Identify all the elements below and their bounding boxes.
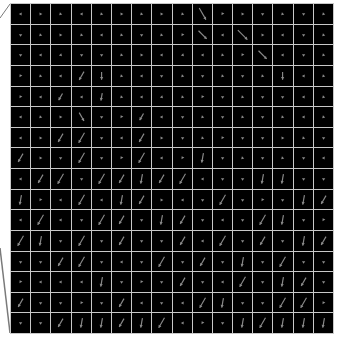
arrow-icon — [51, 313, 70, 333]
field-cell — [314, 25, 333, 45]
arrow-icon — [173, 293, 192, 313]
arrow-icon — [11, 169, 30, 189]
arrow-icon — [72, 169, 91, 189]
field-cell — [51, 210, 70, 230]
arrow-icon — [273, 190, 292, 210]
field-cell — [294, 4, 313, 24]
arrow-icon — [92, 210, 111, 230]
field-cell — [273, 210, 292, 230]
arrow-icon — [173, 190, 192, 210]
field-cell — [233, 272, 252, 292]
field-cell — [31, 25, 50, 45]
arrow-icon — [152, 293, 171, 313]
arrow-icon — [11, 313, 30, 333]
arrow-icon — [253, 128, 272, 148]
field-cell — [314, 87, 333, 107]
field-cell — [112, 66, 131, 86]
field-cell — [233, 128, 252, 148]
field-cell — [92, 169, 111, 189]
arrow-icon — [72, 107, 91, 127]
field-cell — [11, 25, 30, 45]
arrow-icon — [132, 293, 151, 313]
arrow-icon — [132, 210, 151, 230]
arrow-icon — [314, 66, 333, 86]
field-cell — [314, 148, 333, 168]
field-cell — [72, 313, 91, 333]
arrow-icon — [273, 272, 292, 292]
arrow-icon — [31, 4, 50, 24]
field-cell — [132, 293, 151, 313]
arrow-icon — [193, 231, 212, 251]
arrow-icon — [233, 107, 252, 127]
arrow-icon — [233, 45, 252, 65]
field-cell — [152, 169, 171, 189]
field-cell — [152, 293, 171, 313]
field-cell — [152, 210, 171, 230]
arrow-icon — [92, 128, 111, 148]
field-cell — [173, 272, 192, 292]
field-cell — [173, 231, 192, 251]
arrow-icon — [273, 45, 292, 65]
field-cell — [213, 148, 232, 168]
field-cell — [173, 252, 192, 272]
field-cell — [314, 45, 333, 65]
field-cell — [314, 210, 333, 230]
field-cell — [132, 4, 151, 24]
arrow-icon — [152, 210, 171, 230]
field-cell — [51, 293, 70, 313]
field-cell — [112, 272, 131, 292]
arrow-icon — [314, 272, 333, 292]
arrow-icon — [233, 4, 252, 24]
arrow-icon — [112, 148, 131, 168]
arrow-icon — [193, 25, 212, 45]
arrow-icon — [213, 128, 232, 148]
arrow-icon — [132, 148, 151, 168]
arrow-icon — [11, 210, 30, 230]
arrow-icon — [11, 4, 30, 24]
field-cell — [193, 210, 212, 230]
field-cell — [193, 190, 212, 210]
field-cell — [92, 190, 111, 210]
arrow-icon — [273, 4, 292, 24]
field-cell — [72, 190, 91, 210]
arrow-icon — [193, 148, 212, 168]
arrow-icon — [294, 45, 313, 65]
field-cell — [31, 190, 50, 210]
field-cell — [132, 45, 151, 65]
arrow-icon — [273, 66, 292, 86]
arrow-icon — [92, 169, 111, 189]
arrow-icon — [132, 252, 151, 272]
field-cell — [273, 25, 292, 45]
arrow-icon — [51, 87, 70, 107]
arrow-icon — [173, 272, 192, 292]
field-cell — [213, 293, 232, 313]
field-cell — [92, 231, 111, 251]
arrow-icon — [132, 25, 151, 45]
arrow-icon — [72, 4, 91, 24]
field-cell — [152, 148, 171, 168]
arrow-icon — [51, 272, 70, 292]
field-cell — [31, 45, 50, 65]
field-cell — [132, 169, 151, 189]
field-cell — [314, 128, 333, 148]
field-cell — [72, 169, 91, 189]
arrow-icon — [173, 45, 192, 65]
field-cell — [253, 25, 272, 45]
arrow-icon — [233, 231, 252, 251]
arrow-icon — [193, 66, 212, 86]
field-cell — [11, 128, 30, 148]
arrow-icon — [132, 45, 151, 65]
field-cell — [51, 107, 70, 127]
field-cell — [112, 313, 131, 333]
arrow-icon — [294, 169, 313, 189]
field-cell — [314, 107, 333, 127]
arrow-icon — [51, 66, 70, 86]
arrow-icon — [51, 128, 70, 148]
arrow-icon — [31, 128, 50, 148]
arrow-icon — [213, 4, 232, 24]
arrow-icon — [112, 272, 131, 292]
field-cell — [112, 148, 131, 168]
arrow-icon — [193, 272, 212, 292]
arrow-icon — [213, 190, 232, 210]
arrow-icon — [112, 190, 131, 210]
